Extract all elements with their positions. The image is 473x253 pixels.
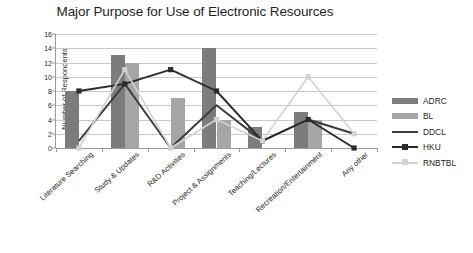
lines-layer (56, 34, 377, 148)
legend-item-adrc[interactable]: ADRC (392, 93, 472, 109)
legend-label: RNBTBL (423, 158, 456, 168)
marker-hku-0 (76, 88, 81, 93)
y-tick-label-0: 0 (22, 145, 52, 152)
y-tick-label-16: 16 (22, 31, 52, 38)
chart-legend: ADRCBLDDCLHKURNBTBL (392, 93, 472, 171)
marker-rnbtbl-4 (260, 138, 265, 143)
x-axis-label-4: Teaching/Lectures (227, 150, 279, 198)
y-tick-label-6: 6 (22, 102, 52, 109)
y-tick-label-14: 14 (22, 45, 52, 52)
chart-container: Major Purpose for Use of Electronic Reso… (0, 0, 473, 253)
marker-hku-1 (122, 81, 127, 86)
legend-swatch (392, 113, 418, 119)
legend-marker (402, 144, 408, 150)
plot-area: Number of Respondents 0246810121416 (56, 34, 377, 148)
marker-rnbtbl-0 (76, 145, 81, 150)
legend-swatch (392, 98, 418, 104)
y-tick-label-2: 2 (22, 130, 52, 137)
x-axis-label-6: Any other (340, 150, 370, 178)
x-axis-labels: Literature SearchingStudy & UpdatesR&D A… (56, 150, 386, 245)
x-axis-label-2: R&D Activities (145, 150, 186, 189)
legend-key-hku-icon (392, 141, 418, 153)
legend-label: ADRC (423, 96, 447, 106)
marker-hku-3 (214, 88, 219, 93)
legend-line (392, 131, 418, 133)
y-tick-label-10: 10 (22, 73, 52, 80)
gridline-0 (56, 148, 377, 149)
legend-item-hku[interactable]: HKU (392, 140, 472, 156)
marker-hku-2 (168, 67, 173, 72)
x-axis-label-0: Literature Searching (38, 150, 95, 202)
line-rnbtbl (79, 70, 354, 148)
marker-rnbtbl-6 (351, 131, 356, 136)
legend-item-ddcl[interactable]: DDCL (392, 124, 472, 140)
legend-label: DDCL (423, 127, 446, 137)
marker-rnbtbl-3 (214, 117, 219, 122)
legend-item-bl[interactable]: BL (392, 109, 472, 125)
legend-label: HKU (423, 142, 441, 152)
legend-key-rnbtbl-icon (392, 157, 418, 169)
y-tick-label-8: 8 (22, 88, 52, 95)
y-tick-label-4: 4 (22, 116, 52, 123)
marker-rnbtbl-1 (122, 67, 127, 72)
legend-key-adrc-icon (392, 95, 418, 107)
legend-key-ddcl-icon (392, 126, 418, 138)
legend-key-bl-icon (392, 110, 418, 122)
legend-label: BL (423, 111, 433, 121)
y-tick-label-12: 12 (22, 59, 52, 66)
legend-item-rnbtbl[interactable]: RNBTBL (392, 155, 472, 171)
chart-title: Major Purpose for Use of Electronic Reso… (0, 4, 390, 19)
marker-rnbtbl-5 (306, 74, 311, 79)
legend-marker (402, 159, 408, 165)
x-axis-label-1: Study & Updates (92, 150, 140, 195)
marker-hku-5 (306, 117, 311, 122)
marker-rnbtbl-2 (168, 145, 173, 150)
marker-hku-6 (351, 145, 356, 150)
